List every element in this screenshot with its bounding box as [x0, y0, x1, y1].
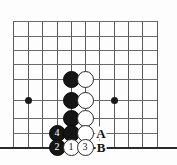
grid-line-horizontal-0	[13, 21, 157, 22]
white-stone-3	[77, 110, 94, 127]
white-stone-1	[77, 71, 94, 88]
grid-line-vertical-8	[128, 21, 129, 147]
grid-line-horizontal-2	[13, 50, 157, 51]
white-stone-move-3: 3	[77, 139, 94, 156]
stone-move-number: 4	[55, 128, 60, 138]
point-label-a: A	[95, 127, 106, 140]
grid-line-vertical-2	[42, 21, 43, 147]
star-point-left	[25, 97, 32, 104]
point-label-b: B	[96, 141, 107, 154]
grid-line-vertical-0	[13, 21, 14, 147]
go-board-diagram: 4213 AB	[0, 0, 177, 165]
grid-line-horizontal-1	[13, 36, 157, 37]
star-point-right	[111, 97, 118, 104]
grid-line-vertical-10	[157, 21, 158, 147]
grid-line-vertical-7	[114, 21, 115, 147]
stone-move-number: 1	[69, 142, 74, 152]
stone-move-number: 3	[83, 142, 88, 152]
grid-line-vertical-1	[28, 21, 29, 147]
grid-line-vertical-9	[142, 21, 143, 147]
stone-move-number: 2	[55, 142, 60, 152]
white-stone-2	[77, 92, 94, 109]
grid-line-horizontal-3	[13, 64, 157, 65]
